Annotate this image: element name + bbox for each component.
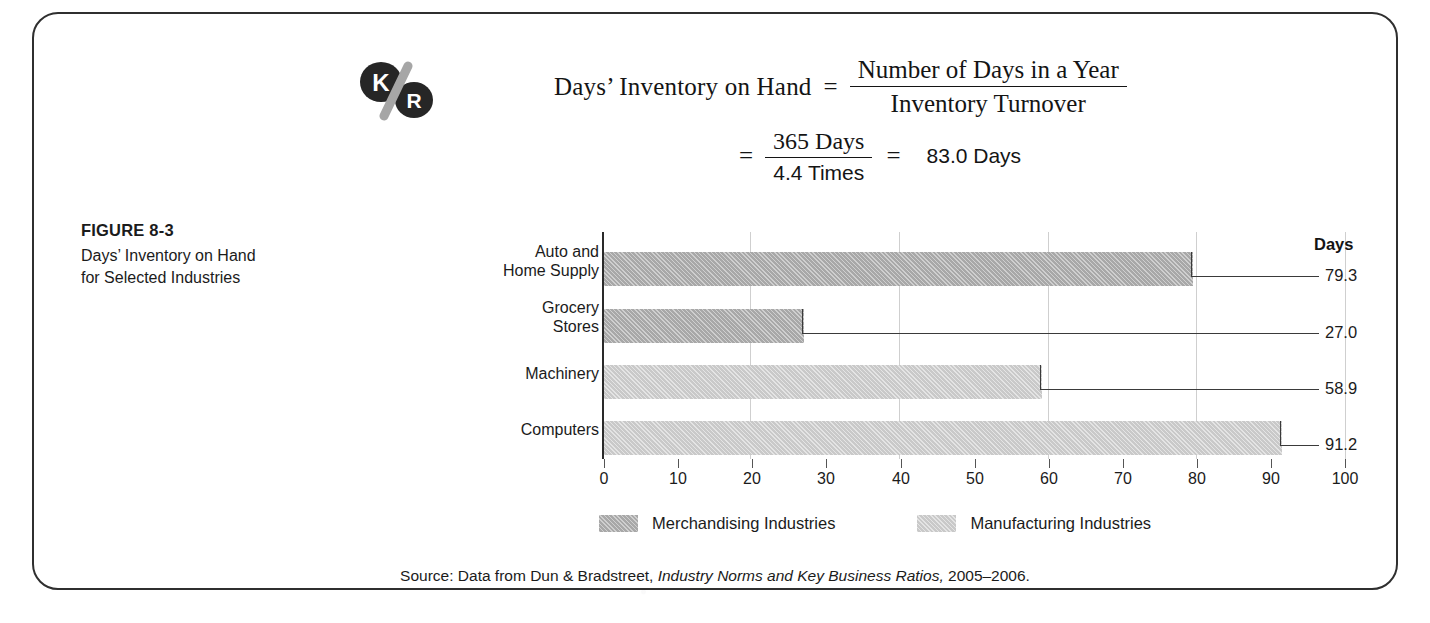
formula-fraction-1: Number of Days in a Year Inventory Turno…: [850, 56, 1127, 118]
formula-equals: =: [824, 73, 838, 101]
xtick-label-10: 10: [669, 470, 687, 488]
leader-line-machinery: [1040, 389, 1319, 390]
legend-item-manufacturing: Manufacturing Industries: [917, 514, 1151, 533]
value-computers: 91.2: [1325, 435, 1357, 454]
figure-number: FIGURE 8-3: [81, 221, 331, 240]
bar-grocery-stores: [604, 309, 804, 343]
formula-line-1: Days’ Inventory on Hand = Number of Days…: [554, 56, 1127, 118]
source-publication: Industry Norms and Key Business Ratios,: [658, 567, 944, 584]
xtick-90: [1271, 459, 1272, 468]
value-grocery-stores: 27.0: [1325, 323, 1357, 342]
formula-numerator-2: 365 Days: [765, 128, 872, 157]
value-auto-and-home-supply: 79.3: [1325, 266, 1357, 285]
figure-caption: FIGURE 8-3 Days’ Inventory on Hand for S…: [81, 221, 331, 289]
figure-title-line-1: Days’ Inventory on Hand: [81, 245, 331, 267]
bar-auto-and-home-supply: [604, 252, 1193, 286]
xtick-label-70: 70: [1114, 470, 1132, 488]
legend-label-merchandising: Merchandising Industries: [652, 514, 835, 533]
category-label-line-2: Home Supply: [439, 261, 599, 280]
x-axis: 0 10 20 30 40 50 60 70 80 90 100: [602, 459, 1345, 493]
formula-result: 83.0 Days: [927, 144, 1022, 168]
figure-title-line-2: for Selected Industries: [81, 267, 331, 289]
chart-legend: Merchandising Industries Manufacturing I…: [599, 514, 1151, 533]
xtick-label-90: 90: [1262, 470, 1280, 488]
category-label-line-2: Stores: [439, 317, 599, 336]
xtick-label-0: 0: [600, 470, 609, 488]
leader-tick-machinery: [1040, 365, 1041, 389]
xtick-80: [1197, 459, 1198, 468]
xtick-label-80: 80: [1188, 470, 1206, 488]
formula-line-2: = 365 Days 4.4 Times = 83.0 Days: [739, 128, 1127, 184]
leader-line-grocery-stores: [802, 333, 1319, 334]
svg-text:R: R: [406, 89, 421, 112]
xtick-0: [604, 459, 605, 468]
xtick-10: [678, 459, 679, 468]
source-note: Source: Data from Dun & Bradstreet, Indu…: [400, 567, 1030, 585]
formula-equals-3: =: [886, 142, 900, 170]
category-label-line-1: Computers: [439, 420, 599, 439]
formula-fraction-2: 365 Days 4.4 Times: [765, 128, 872, 184]
category-label-line-1: Auto and: [439, 242, 599, 261]
value-machinery: 58.9: [1325, 379, 1357, 398]
leader-tick-computers: [1280, 421, 1281, 445]
kr-logo: K R: [356, 60, 442, 122]
xtick-label-100: 100: [1332, 470, 1359, 488]
source-years: 2005–2006.: [948, 567, 1030, 584]
formula-block: Days’ Inventory on Hand = Number of Days…: [554, 56, 1127, 184]
xtick-50: [975, 459, 976, 468]
xtick-20: [752, 459, 753, 468]
formula-label: Days’ Inventory on Hand: [554, 73, 812, 101]
formula-denominator-1: Inventory Turnover: [850, 86, 1127, 118]
leader-tick-auto-and-home-supply: [1191, 252, 1192, 276]
legend-label-manufacturing: Manufacturing Industries: [970, 514, 1151, 533]
bar-chart: Auto and Home Supply Grocery Stores Mach…: [439, 220, 1379, 550]
bar-computers: [604, 421, 1282, 455]
svg-text:K: K: [372, 69, 390, 96]
source-prefix: Source: Data from Dun & Bradstreet,: [400, 567, 653, 584]
xtick-label-30: 30: [817, 470, 835, 488]
plot-area: [602, 232, 1345, 459]
figure-panel: K R Days’ Inventory on Hand = Number of …: [32, 12, 1398, 590]
figure-title: Days’ Inventory on Hand for Selected Ind…: [81, 245, 331, 289]
leader-tick-grocery-stores: [802, 309, 803, 333]
legend-swatch-manufacturing: [917, 515, 956, 532]
leader-line-auto-and-home-supply: [1191, 276, 1319, 277]
xtick-label-50: 50: [966, 470, 984, 488]
category-label-machinery: Machinery: [439, 364, 599, 383]
xtick-label-60: 60: [1040, 470, 1058, 488]
xtick-40: [901, 459, 902, 468]
legend-swatch-merchandising: [599, 515, 638, 532]
category-label-line-1: Machinery: [439, 364, 599, 383]
formula-numerator-1: Number of Days in a Year: [850, 56, 1127, 86]
category-label-grocery-stores: Grocery Stores: [439, 298, 599, 336]
value-column-header: Days: [1314, 235, 1353, 254]
xtick-label-40: 40: [892, 470, 910, 488]
xtick-label-20: 20: [743, 470, 761, 488]
formula-denominator-2: 4.4 Times: [765, 157, 872, 185]
xtick-30: [826, 459, 827, 468]
xtick-60: [1049, 459, 1050, 468]
leader-line-computers: [1280, 445, 1319, 446]
category-label-auto-and-home-supply: Auto and Home Supply: [439, 242, 599, 280]
bar-machinery: [604, 365, 1042, 399]
xtick-70: [1123, 459, 1124, 468]
xtick-100: [1345, 459, 1346, 468]
category-label-computers: Computers: [439, 420, 599, 439]
legend-item-merchandising: Merchandising Industries: [599, 514, 835, 533]
category-label-line-1: Grocery: [439, 298, 599, 317]
formula-equals-2: =: [739, 142, 753, 170]
